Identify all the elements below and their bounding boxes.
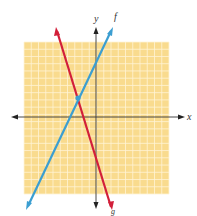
line-f-arrow-top-icon (107, 27, 113, 36)
intersection-point (75, 95, 80, 100)
f-label: f (114, 11, 117, 22)
coordinate-plane (0, 0, 197, 216)
x-axis-label: x (187, 111, 191, 122)
x-axis-arrow-left-icon (11, 115, 18, 120)
line-g-arrow-top-icon (54, 27, 60, 36)
y-axis-arrow-down-icon (94, 202, 99, 209)
y-axis-arrow-up-icon (94, 27, 99, 34)
g-label: g (111, 207, 115, 216)
y-axis-label: y (94, 13, 98, 24)
gridlines (24, 42, 169, 194)
x-axis-arrow-right-icon (178, 115, 185, 120)
line-f-arrow-bottom-icon (26, 201, 32, 210)
